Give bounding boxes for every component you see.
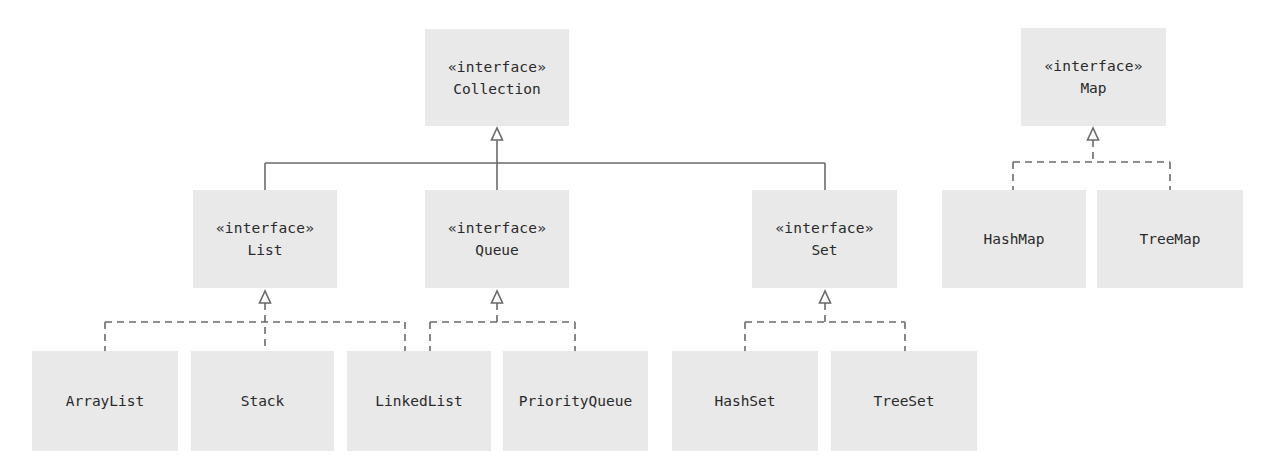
stereotype-label: «interface» — [448, 56, 546, 78]
dashed-implements-set — [745, 303, 905, 351]
stereotype-label: «interface» — [1044, 55, 1142, 77]
class-name: ArrayList — [66, 390, 145, 412]
class-stack: Stack — [191, 351, 334, 451]
collections-class-diagram: «interface» Collection «interface» List … — [0, 0, 1273, 468]
dashed-implements-list — [105, 303, 405, 351]
solid-extends-lines — [265, 140, 825, 190]
arrowhead-map — [1088, 128, 1099, 140]
class-name: HashSet — [714, 390, 775, 412]
interface-queue: «interface» Queue — [425, 190, 569, 288]
interface-list: «interface» List — [193, 190, 337, 288]
class-hashmap: HashMap — [942, 190, 1086, 288]
arrowhead-set — [820, 291, 831, 303]
dashed-implements-map — [1013, 140, 1170, 190]
class-name: Set — [811, 239, 837, 261]
dashed-implements-queue — [430, 303, 575, 351]
class-name: Map — [1080, 77, 1106, 99]
class-treeset: TreeSet — [831, 351, 977, 451]
class-name: TreeSet — [873, 390, 934, 412]
class-name: List — [248, 239, 283, 261]
class-name: Stack — [241, 390, 285, 412]
arrowhead-collection — [492, 128, 503, 140]
stereotype-label: «interface» — [775, 217, 873, 239]
class-hashset: HashSet — [672, 351, 818, 451]
class-treemap: TreeMap — [1097, 190, 1243, 288]
class-name: TreeMap — [1139, 228, 1200, 250]
interface-collection: «interface» Collection — [425, 29, 569, 126]
interface-set: «interface» Set — [752, 190, 897, 288]
arrowhead-list — [260, 291, 271, 303]
class-name: PriorityQueue — [519, 390, 633, 412]
class-name: HashMap — [983, 228, 1044, 250]
stereotype-label: «interface» — [216, 217, 314, 239]
class-linkedlist: LinkedList — [347, 351, 491, 451]
class-name: Collection — [453, 78, 540, 100]
interface-map: «interface» Map — [1021, 28, 1166, 126]
class-arraylist: ArrayList — [32, 351, 178, 451]
stereotype-label: «interface» — [448, 217, 546, 239]
class-priorityqueue: PriorityQueue — [503, 351, 648, 451]
arrowhead-queue — [492, 291, 503, 303]
class-name: Queue — [475, 239, 519, 261]
class-name: LinkedList — [375, 390, 462, 412]
